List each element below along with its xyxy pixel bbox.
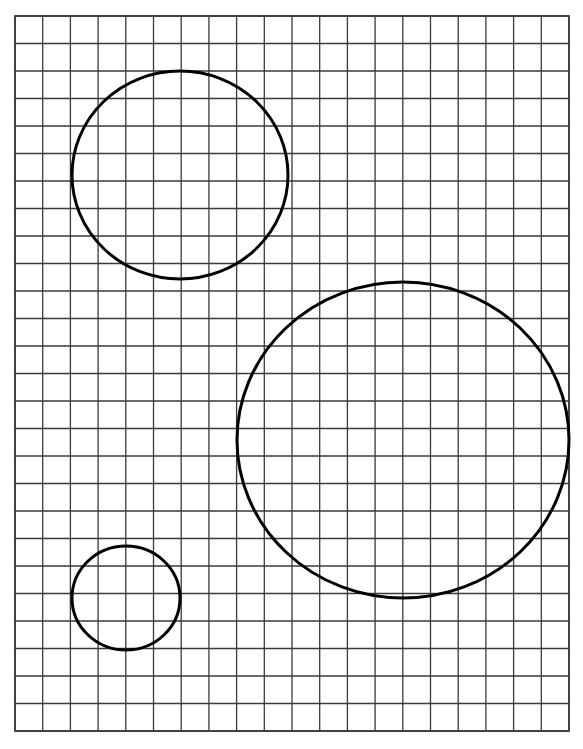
- circles-group: [72, 71, 569, 650]
- circle-large-top-left: [72, 71, 288, 279]
- grid-lines: [15, 16, 569, 731]
- grid-diagram: [0, 0, 583, 749]
